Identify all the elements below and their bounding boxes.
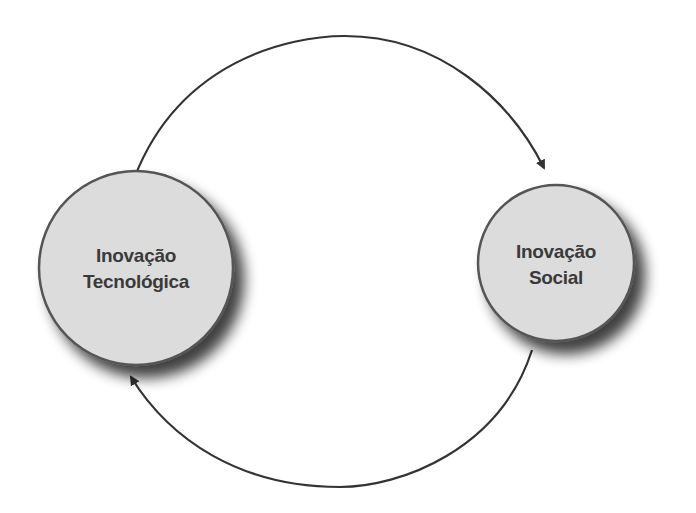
arrow-tecnologica-to-social bbox=[131, 36, 544, 187]
node-label-line1: Inovação bbox=[516, 241, 596, 262]
node-inovacao-tecnologica: Inovação Tecnológica bbox=[39, 171, 233, 365]
node-label-line2: Social bbox=[529, 267, 583, 288]
node-circle bbox=[39, 171, 233, 365]
node-circle bbox=[478, 185, 634, 341]
innovation-cycle-diagram: Inovação Tecnológica Inovação Social bbox=[0, 0, 696, 513]
node-inovacao-social: Inovação Social bbox=[478, 185, 634, 341]
node-label-line2: Tecnológica bbox=[83, 271, 190, 292]
node-label-line1: Inovação bbox=[96, 245, 176, 266]
arrow-social-to-tecnologica bbox=[131, 350, 532, 487]
